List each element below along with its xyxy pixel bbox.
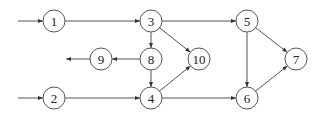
node-3: 3 bbox=[140, 10, 162, 32]
node-label: 6 bbox=[244, 91, 251, 106]
edge-4-to-10 bbox=[160, 66, 191, 91]
node-label: 8 bbox=[148, 52, 155, 67]
node-label: 10 bbox=[193, 52, 206, 67]
directed-graph-diagram: 12345678910 bbox=[0, 0, 321, 115]
graph-svg: 12345678910 bbox=[0, 0, 321, 115]
node-label: 4 bbox=[148, 91, 155, 106]
node-10: 10 bbox=[188, 48, 210, 70]
node-4: 4 bbox=[140, 87, 162, 109]
edge-6-to-7 bbox=[256, 66, 288, 91]
edge-3-to-10 bbox=[160, 28, 191, 52]
node-label: 5 bbox=[244, 14, 251, 29]
edge-5-to-7 bbox=[256, 28, 288, 53]
node-label: 7 bbox=[293, 52, 300, 67]
node-9: 9 bbox=[90, 48, 112, 70]
node-label: 9 bbox=[98, 52, 105, 67]
node-label: 1 bbox=[51, 14, 58, 29]
node-6: 6 bbox=[236, 87, 258, 109]
node-7: 7 bbox=[285, 48, 307, 70]
node-1: 1 bbox=[43, 10, 65, 32]
node-label: 2 bbox=[51, 91, 58, 106]
node-2: 2 bbox=[43, 87, 65, 109]
node-label: 3 bbox=[148, 14, 155, 29]
node-8: 8 bbox=[140, 48, 162, 70]
node-5: 5 bbox=[236, 10, 258, 32]
